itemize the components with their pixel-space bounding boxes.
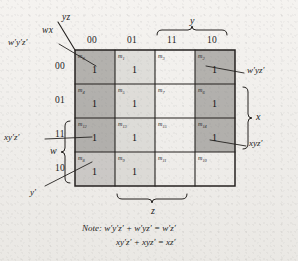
row-header-11: 11 — [55, 130, 65, 140]
column-header-01: 01 — [127, 36, 137, 46]
row-header-01: 01 — [55, 96, 65, 106]
brace-label-w: w — [50, 146, 57, 156]
leader-xyz-right — [210, 140, 246, 146]
brace-label-z: z — [151, 206, 155, 216]
annotation-y-not: y′ — [30, 188, 36, 197]
figure-canvas: m01m11m3m21m41m51m7m61m121m131m15m141m81… — [0, 0, 298, 261]
brace-label-x: x — [256, 112, 260, 122]
leader-wyz-right — [206, 66, 244, 73]
note-line-2: xy′z′ + xyz′ = xz′ — [116, 238, 176, 247]
column-header-11: 11 — [167, 36, 177, 46]
annotation-x-y-not-z-not: xy′z′ — [4, 133, 19, 142]
row-header-00: 00 — [55, 62, 65, 72]
row-header-10: 10 — [55, 164, 65, 174]
brace-z — [117, 194, 187, 203]
brace-y — [157, 26, 227, 35]
annotation-w-not-y-not-z-not: w′y′z′ — [8, 38, 27, 47]
note-equation-1: w′y′z′ + w′yz′ = w′z′ — [104, 223, 175, 233]
leader-xyz-left — [45, 137, 92, 139]
annotation-x-y-z-not: xyz′ — [249, 139, 262, 148]
brace-label-y: y — [190, 16, 194, 26]
corner-label-yz: yz — [62, 13, 71, 23]
kmap-linework — [0, 0, 298, 261]
column-header-10: 10 — [207, 36, 217, 46]
annotation-w-not-y-z-not: w′yz′ — [247, 66, 264, 75]
note-prefix: Note: — [82, 223, 102, 233]
corner-diagonal — [58, 22, 75, 50]
corner-label-wx: wx — [42, 26, 53, 36]
note-line-1: Note: w′y′z′ + w′yz′ = w′z′ — [82, 224, 176, 233]
column-header-00: 00 — [87, 36, 97, 46]
